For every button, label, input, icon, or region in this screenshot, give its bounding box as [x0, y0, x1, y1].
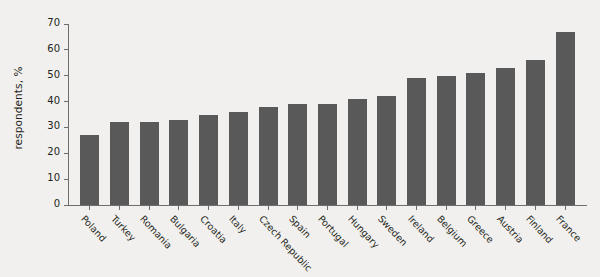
x-axis-label-slot: Spain	[283, 211, 313, 277]
x-axis-label-slot: France	[550, 211, 580, 277]
x-axis-label-slot: Austria	[491, 211, 521, 277]
bar-slot[interactable]	[283, 24, 313, 205]
bar[interactable]	[259, 107, 278, 205]
x-axis-label-slot: Greece	[461, 211, 491, 277]
bar-slot[interactable]	[75, 24, 105, 205]
y-axis-tick-label: 10	[47, 172, 60, 183]
x-axis-tick-mark	[119, 206, 120, 210]
bar[interactable]	[318, 104, 337, 205]
x-axis-label-slot: Portugal	[313, 211, 343, 277]
x-axis-label: Turkey	[109, 213, 138, 243]
bar-series	[68, 24, 587, 205]
bar[interactable]	[466, 73, 485, 205]
bar[interactable]	[229, 112, 248, 205]
bar[interactable]	[80, 135, 99, 205]
x-axis-label: Spain	[287, 213, 313, 240]
y-axis-tick-label: 50	[47, 69, 60, 80]
x-axis-tick-mark	[535, 206, 536, 210]
bar-slot[interactable]	[253, 24, 283, 205]
bar[interactable]	[526, 60, 545, 205]
x-axis-tick-mark	[475, 206, 476, 210]
x-axis-label-slot: Czech Republic	[253, 211, 283, 277]
bar[interactable]	[407, 78, 426, 205]
x-axis-tick-mark	[149, 206, 150, 210]
x-axis-tick-mark	[89, 206, 90, 210]
bar-slot[interactable]	[134, 24, 164, 205]
bar-slot[interactable]	[164, 24, 194, 205]
bar-slot[interactable]	[313, 24, 343, 205]
x-axis-label-slot: Ireland	[402, 211, 432, 277]
bar[interactable]	[169, 120, 188, 205]
bar[interactable]	[348, 99, 367, 205]
bar[interactable]	[140, 122, 159, 205]
bar[interactable]	[556, 32, 575, 205]
y-axis-title: respondents, %	[6, 0, 30, 215]
x-axis-tick-mark	[416, 206, 417, 210]
y-axis-tick-label: 20	[47, 146, 60, 157]
x-axis-tick-mark	[357, 206, 358, 210]
bar-slot[interactable]	[431, 24, 461, 205]
x-axis-label-slot: Italy	[224, 211, 254, 277]
bar-slot[interactable]	[105, 24, 135, 205]
x-axis-label-slot: Hungary	[342, 211, 372, 277]
bar[interactable]	[199, 115, 218, 206]
x-axis-label-slot: Finland	[521, 211, 551, 277]
y-axis-tick-label: 70	[47, 17, 60, 28]
x-axis-labels: PolandTurkeyRomaniaBulgariaCroatiaItalyC…	[68, 211, 587, 277]
y-axis-tick-label: 60	[47, 43, 60, 54]
bar[interactable]	[288, 104, 307, 205]
bar[interactable]	[437, 76, 456, 205]
bar[interactable]	[377, 96, 396, 205]
bar-chart: respondents, % 010203040506070 PolandTur…	[0, 0, 600, 277]
x-axis-label-slot: Turkey	[105, 211, 135, 277]
x-axis-tick-mark	[386, 206, 387, 210]
bar-slot[interactable]	[224, 24, 254, 205]
y-axis-tick-label: 30	[47, 120, 60, 131]
x-axis-tick-mark	[208, 206, 209, 210]
y-axis: 010203040506070	[30, 0, 68, 215]
bar-slot[interactable]	[402, 24, 432, 205]
bar-slot[interactable]	[550, 24, 580, 205]
x-axis-label-slot: Croatia	[194, 211, 224, 277]
bar[interactable]	[110, 122, 129, 205]
y-axis-title-label: respondents, %	[12, 66, 24, 149]
bar-slot[interactable]	[461, 24, 491, 205]
x-axis-label-slot: Belgium	[431, 211, 461, 277]
y-axis-tick-label: 0	[54, 198, 60, 209]
bar-slot[interactable]	[521, 24, 551, 205]
bar-slot[interactable]	[491, 24, 521, 205]
x-axis-label-slot: Sweden	[372, 211, 402, 277]
x-axis-tick-mark	[178, 206, 179, 210]
bar-slot[interactable]	[194, 24, 224, 205]
bar[interactable]	[496, 68, 515, 205]
x-axis-label: Italy	[227, 213, 249, 236]
x-axis-tick-mark	[565, 206, 566, 210]
x-axis-label-slot: Poland	[75, 211, 105, 277]
x-axis-label: France	[554, 213, 584, 244]
x-axis-tick-mark	[446, 206, 447, 210]
plot-area	[68, 24, 587, 205]
x-axis-tick-mark	[297, 206, 298, 210]
x-axis-tick-mark	[505, 206, 506, 210]
y-axis-tick-label: 40	[47, 95, 60, 106]
x-axis-tick-mark	[327, 206, 328, 210]
bar-slot[interactable]	[342, 24, 372, 205]
x-axis-tick-mark	[268, 206, 269, 210]
bar-slot[interactable]	[372, 24, 402, 205]
x-axis-label-slot: Bulgaria	[164, 211, 194, 277]
x-axis-label-slot: Romania	[134, 211, 164, 277]
x-axis-tick-mark	[238, 206, 239, 210]
